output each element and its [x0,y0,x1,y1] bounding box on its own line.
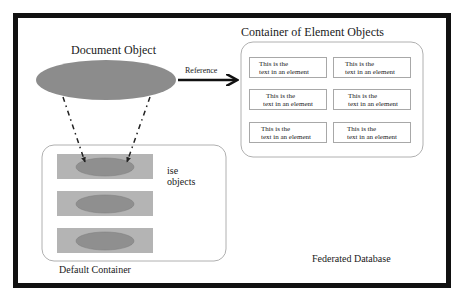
federated-database-label: Federated Database [312,254,391,264]
document-object-label: Document Object [71,44,156,56]
ise-object-2 [57,191,153,216]
diagram-canvas [0,0,462,300]
ise-objects-label: ise objects [167,165,217,187]
element-text-line2: text in an element [348,100,410,108]
element-box: This is the text in an element [333,57,411,78]
element-text-line2: text in an element [347,133,410,141]
element-text-line1: This is the [259,60,326,68]
document-object-ellipse [36,60,176,100]
element-text-line1: This is the [347,125,410,133]
element-text-line2: text in an element [261,133,326,141]
element-box: This is the text in an element [249,122,327,143]
ise-label-line2: objects [167,176,217,187]
element-text-line2: text in an element [259,68,326,76]
reference-label: Reference [185,67,217,75]
element-text-line2: text in an element [263,100,326,108]
element-box: This is the text in an element [333,89,411,110]
element-box: This is the text in an element [249,57,327,78]
element-text-line1: This is the [345,60,410,68]
element-text-line2: text in an element [345,68,410,76]
element-text-line1: This is the [261,125,326,133]
ise-object-1 [57,154,153,179]
element-box: This is the text in an element [249,89,327,110]
element-box: This is the text in an element [333,122,411,143]
default-container-label: Default Container [59,265,131,275]
ise-label-line1: ise [167,165,217,176]
element-container-label: Container of Element Objects [241,26,384,38]
element-text-line1: This is the [263,92,326,100]
ise-object-3 [57,228,153,253]
element-text-line1: This is the [348,92,410,100]
